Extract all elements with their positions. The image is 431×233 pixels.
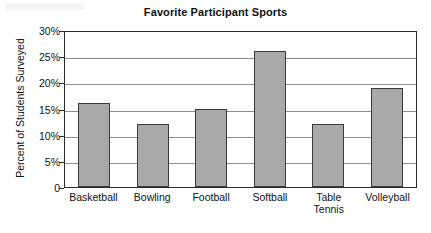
bar-slot <box>182 32 241 187</box>
y-tick-label: 25% <box>22 52 60 62</box>
y-tick-label: 15% <box>22 105 60 115</box>
y-tick-label: 0 <box>22 183 60 193</box>
bar-football <box>195 109 227 188</box>
x-tick-label: Basketball <box>64 191 123 215</box>
y-tick-label: 5% <box>22 157 60 167</box>
x-tick-label-line: Tennis <box>299 203 358 215</box>
x-axis-tick-labels: BasketballBowlingFootballSoftballTableTe… <box>64 191 417 215</box>
y-axis-tick-labels: 05%10%15%20%25%30% <box>22 31 60 188</box>
bar-softball <box>254 51 286 187</box>
x-tick-label-line: Football <box>182 191 241 203</box>
y-tick-label: 20% <box>22 78 60 88</box>
y-tick-mark <box>59 31 64 32</box>
y-tick-mark <box>59 188 64 189</box>
bars-group <box>65 32 416 187</box>
x-tick-label: Football <box>182 191 241 215</box>
bar-slot <box>358 32 417 187</box>
y-tick-label: 30% <box>22 26 60 36</box>
x-tick-label-line: Table <box>299 191 358 203</box>
y-tick-mark <box>59 110 64 111</box>
y-tick-label: 10% <box>22 131 60 141</box>
x-tick-label: Softball <box>240 191 299 215</box>
chart-title: Favorite Participant Sports <box>0 6 431 18</box>
x-tick-label: Volleyball <box>358 191 417 215</box>
x-tick-label-line: Softball <box>240 191 299 203</box>
x-tick-label: TableTennis <box>299 191 358 215</box>
y-tick-mark <box>59 83 64 84</box>
plot-area <box>64 31 417 188</box>
y-tick-mark <box>59 136 64 137</box>
bar-slot <box>299 32 358 187</box>
x-tick-label: Bowling <box>123 191 182 215</box>
bar-slot <box>241 32 300 187</box>
y-tick-mark <box>59 57 64 58</box>
bar-volleyball <box>371 88 403 187</box>
x-tick-label-line: Volleyball <box>358 191 417 203</box>
bar-chart-figure: Favorite Participant Sports Percent of S… <box>0 0 431 233</box>
x-tick-label-line: Bowling <box>123 191 182 203</box>
x-tick-label-line: Basketball <box>64 191 123 203</box>
bar-table-tennis <box>312 124 344 187</box>
bar-slot <box>65 32 124 187</box>
y-tick-mark <box>59 162 64 163</box>
bar-slot <box>124 32 183 187</box>
bar-basketball <box>78 103 110 187</box>
bar-bowling <box>137 124 169 187</box>
